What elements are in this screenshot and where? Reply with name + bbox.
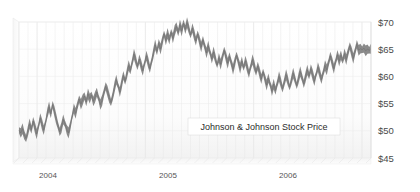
- stock-price-chart: $45$50$55$60$65$70 200420052006 Johnson …: [0, 0, 420, 192]
- y-axis-tick-label: $65: [378, 44, 394, 55]
- series-label: Johnson & Johnson Stock Price: [188, 118, 340, 135]
- y-axis-tick-label: $70: [378, 17, 394, 28]
- x-axis-tick-label: 2006: [279, 171, 297, 180]
- y-axis-tick-label: $60: [378, 71, 394, 82]
- chart-canvas: $45$50$55$60$65$70 200420052006 Johnson …: [0, 0, 420, 192]
- chart-floor: [13, 158, 371, 164]
- chart-left-wall: [13, 18, 19, 162]
- y-axis-tick-label: $45: [378, 153, 394, 164]
- y-axis-tick-label: $55: [378, 98, 394, 109]
- series-label-text: Johnson & Johnson Stock Price: [200, 122, 327, 132]
- x-axis-tick-label: 2004: [39, 171, 57, 180]
- x-axis-tick-label: 2005: [159, 171, 177, 180]
- y-axis-tick-label: $50: [378, 125, 394, 136]
